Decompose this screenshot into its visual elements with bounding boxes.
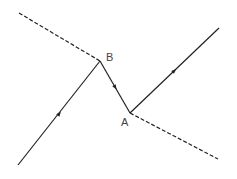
arrow-icon-segment xyxy=(112,84,118,90)
dashed-line-lower-right xyxy=(130,113,218,159)
ray-reflection-diagram: B A xyxy=(0,0,237,179)
dashed-line-upper-left xyxy=(19,13,100,61)
diagram-svg: B A xyxy=(0,0,237,179)
label-b: B xyxy=(106,51,113,63)
label-a: A xyxy=(121,116,129,128)
